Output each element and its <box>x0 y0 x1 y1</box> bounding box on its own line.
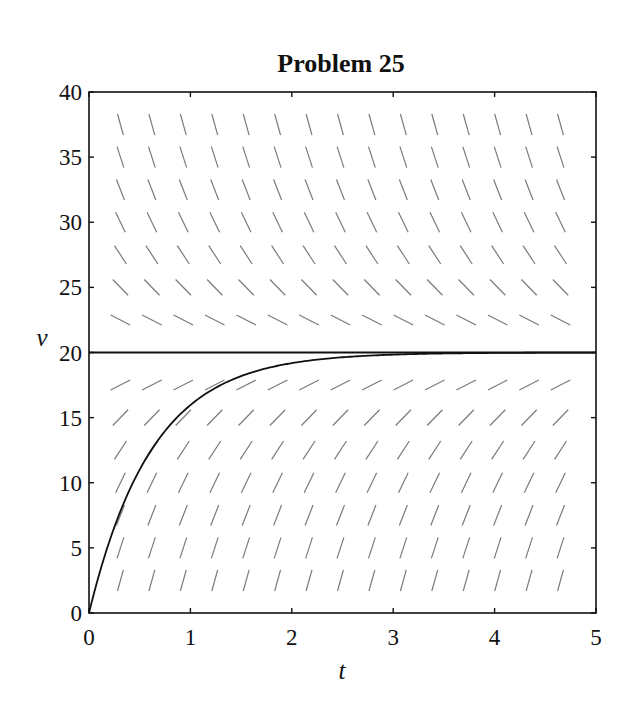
slope-segment <box>494 147 501 168</box>
slope-segment <box>209 441 221 459</box>
slope-segment <box>425 315 445 325</box>
slope-segment <box>394 380 414 390</box>
slope-segment <box>114 246 126 264</box>
slope-segment <box>304 212 314 232</box>
slope-segment <box>148 537 155 558</box>
slope-segment <box>427 279 442 295</box>
slope-segment <box>177 441 189 459</box>
slope-segment <box>399 505 407 526</box>
slope-segment <box>336 212 346 232</box>
y-tick-label: 5 <box>71 536 83 561</box>
x-tick-label: 3 <box>387 625 399 650</box>
slope-segment <box>238 279 253 295</box>
x-tick-label: 0 <box>83 625 95 650</box>
slope-segment <box>432 570 438 591</box>
slope-segment <box>274 537 281 558</box>
y-tick-label: 30 <box>59 210 82 235</box>
slope-segment <box>488 380 508 390</box>
slope-segment <box>524 212 534 232</box>
slope-segment <box>334 246 346 264</box>
slope-segment <box>275 114 281 135</box>
y-tick-label: 10 <box>59 471 82 496</box>
slope-segment <box>116 473 126 493</box>
slope-segment <box>242 179 250 200</box>
slope-segment <box>180 570 186 591</box>
slope-segment <box>242 505 250 526</box>
slope-segment <box>368 179 376 200</box>
slope-segment <box>180 147 187 168</box>
y-tick-label: 15 <box>59 406 82 431</box>
slope-segment <box>274 179 282 200</box>
slope-segment <box>369 570 375 591</box>
slope-segment <box>429 246 441 264</box>
slope-segment <box>494 537 501 558</box>
slope-segment <box>147 473 157 493</box>
slope-segment <box>211 179 219 200</box>
slope-segment <box>142 380 162 390</box>
slope-segment <box>553 279 568 295</box>
slope-segment <box>148 147 155 168</box>
slope-segment <box>525 505 533 526</box>
slope-segment <box>519 315 539 325</box>
slope-segment <box>299 315 319 325</box>
slope-segment <box>243 114 249 135</box>
slope-segment <box>557 505 565 526</box>
slope-segment <box>523 441 535 459</box>
slope-segment <box>209 246 221 264</box>
slope-segment <box>557 537 564 558</box>
slope-segment <box>494 179 502 200</box>
slope-segment <box>425 380 445 390</box>
slope-segment <box>430 212 440 232</box>
slope-segment <box>488 315 508 325</box>
slope-segment <box>272 246 284 264</box>
slope-segment <box>275 570 281 591</box>
slope-segment <box>336 473 346 493</box>
slope-segment <box>144 410 159 426</box>
slope-segment <box>331 380 351 390</box>
slope-segment <box>400 147 407 168</box>
slope-segment <box>551 315 571 325</box>
slope-segment <box>117 147 124 168</box>
slope-segment <box>431 537 438 558</box>
slope-segment <box>178 473 188 493</box>
slope-segment <box>460 246 472 264</box>
y-tick-label: 20 <box>59 341 82 366</box>
slope-segment <box>431 179 439 200</box>
slope-segment <box>463 147 470 168</box>
slope-segment <box>431 147 438 168</box>
slope-segment <box>399 473 409 493</box>
chart-title: Problem 25 <box>277 49 404 78</box>
slope-segment <box>524 473 534 493</box>
slope-segment <box>212 114 218 135</box>
slope-segment <box>556 212 566 232</box>
slope-segment <box>210 473 220 493</box>
slope-segment <box>558 570 564 591</box>
slope-segment <box>397 246 409 264</box>
slope-segment <box>369 537 376 558</box>
x-tick-label: 5 <box>590 625 602 650</box>
slope-segment <box>367 473 377 493</box>
slope-segment <box>430 473 440 493</box>
slope-segment <box>243 537 250 558</box>
slope-segment <box>210 212 220 232</box>
slope-segment <box>463 114 469 135</box>
slope-segment <box>144 279 159 295</box>
slope-segment <box>460 441 472 459</box>
slope-segment <box>557 147 564 168</box>
y-tick-label: 0 <box>71 601 83 626</box>
slope-segment <box>429 441 441 459</box>
slope-segment <box>338 114 344 135</box>
slope-segment <box>494 505 502 526</box>
slope-segment <box>337 537 344 558</box>
slope-segment <box>336 505 344 526</box>
slope-segment <box>117 537 124 558</box>
slope-segment <box>336 179 344 200</box>
slope-segment <box>274 147 281 168</box>
slope-segment <box>462 179 470 200</box>
slope-segment <box>306 147 313 168</box>
slope-segment <box>180 114 186 135</box>
slope-segment <box>236 315 256 325</box>
slope-segment <box>551 380 571 390</box>
slope-segment <box>270 279 285 295</box>
slope-segment <box>366 441 378 459</box>
